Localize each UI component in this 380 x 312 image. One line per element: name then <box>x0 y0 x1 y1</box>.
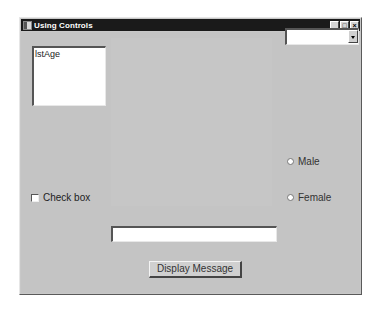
form-client-area: lstAge Check box Male Female Display Mes… <box>21 32 360 293</box>
form-window: Using Controls _ □ × lstAge Check box Ma… <box>19 17 362 295</box>
radio-female-label: Female <box>298 192 331 203</box>
app-icon <box>23 21 32 30</box>
check-box[interactable]: Check box <box>31 192 90 203</box>
radio-female[interactable]: Female <box>287 192 331 203</box>
radio-circle-icon[interactable] <box>287 158 294 165</box>
age-listbox[interactable]: lstAge <box>32 46 106 106</box>
checkbox-label: Check box <box>43 192 90 203</box>
message-textbox[interactable] <box>111 226 277 242</box>
listbox-name: lstAge <box>35 49 60 59</box>
chevron-down-icon[interactable] <box>348 30 358 43</box>
window-title: Using Controls <box>34 21 93 30</box>
radio-male[interactable]: Male <box>287 156 320 167</box>
combo-box[interactable] <box>285 28 359 45</box>
display-message-button[interactable]: Display Message <box>149 261 242 278</box>
picture-box <box>111 38 272 206</box>
checkbox-square-icon[interactable] <box>31 194 39 202</box>
radio-circle-icon[interactable] <box>287 194 294 201</box>
radio-male-label: Male <box>298 156 320 167</box>
